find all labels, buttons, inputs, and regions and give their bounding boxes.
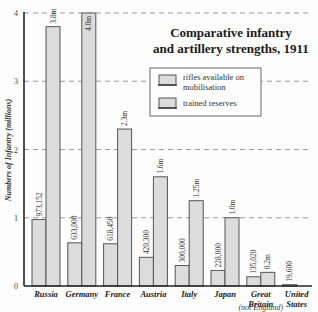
bar-reserves xyxy=(153,177,167,286)
legend: rifles available on mobilisation trained… xyxy=(150,68,261,116)
value-label: 2.3m xyxy=(120,111,129,126)
y-axis-ticks: 01234 xyxy=(14,9,18,291)
value-label: 1.0m xyxy=(228,199,237,214)
category-label: Japan xyxy=(213,289,236,299)
value-label: 300,000 xyxy=(178,238,187,263)
bar-reserves xyxy=(118,129,132,286)
legend-swatch-reserves xyxy=(159,98,176,108)
title-line-1: Comparative infantry xyxy=(170,25,292,40)
bar-rifles xyxy=(139,257,153,286)
title-line-2: and artillery strengths, 1911 xyxy=(153,41,309,56)
category-label: Italy xyxy=(180,289,197,299)
bar-reserves xyxy=(46,27,60,286)
bar-rifles xyxy=(175,266,189,286)
category-label: United xyxy=(285,289,309,299)
y-axis-label: Numbers of Infantry (millions) xyxy=(4,98,13,202)
y-tick-label: 4 xyxy=(14,9,18,18)
category-label: Austria xyxy=(139,289,167,299)
category-label: Russia xyxy=(33,289,58,299)
bar-chart: 01234 Numbers of Infantry (millions) 973… xyxy=(0,0,318,312)
value-label: 19,600 xyxy=(285,261,294,282)
value-label: 4.0m xyxy=(84,16,93,31)
value-label: 3.8m xyxy=(49,8,58,23)
chart-title: Comparative infantry and artillery stren… xyxy=(153,25,309,56)
y-tick-label: 0 xyxy=(14,282,18,291)
category-label: Great xyxy=(251,289,271,299)
legend-label-reserves: trained reserves xyxy=(183,98,237,108)
category-label: France xyxy=(104,289,131,299)
category-label: States xyxy=(286,299,307,309)
value-label: 420,300 xyxy=(142,230,151,255)
value-label: 135,020 xyxy=(249,249,258,274)
value-label: 228,000 xyxy=(214,243,223,268)
bar-rifles xyxy=(68,243,82,286)
legend-swatch-rifles xyxy=(159,75,176,85)
y-tick-label: 1 xyxy=(14,214,18,223)
category-note: (not England) xyxy=(238,303,283,312)
category-label: Germany xyxy=(66,289,99,299)
value-label: 633,000 xyxy=(70,215,79,240)
y-tick-label: 2 xyxy=(14,146,18,155)
bar-rifles xyxy=(247,277,261,286)
bar-reserves xyxy=(261,272,275,286)
bar-rifles xyxy=(211,270,225,286)
bar-rifles xyxy=(32,220,46,286)
value-label: 1.6m xyxy=(156,158,165,173)
value-label: 0.2m xyxy=(263,254,272,269)
y-tick-label: 3 xyxy=(14,77,18,86)
value-label: 973,152 xyxy=(35,192,44,217)
value-label: 1.25m xyxy=(192,179,201,198)
legend-label-rifles-2: mobilisation xyxy=(183,82,226,92)
legend-label-rifles-1: rifles available on xyxy=(183,72,245,82)
category-labels: RussiaGermanyFranceAustriaItalyJapanGrea… xyxy=(33,289,309,312)
value-label: 618,450 xyxy=(106,216,115,241)
bar-rifles xyxy=(104,244,118,286)
bar-reserves xyxy=(189,201,203,286)
bar-reserves xyxy=(225,218,239,286)
bar-reserves xyxy=(82,13,96,286)
